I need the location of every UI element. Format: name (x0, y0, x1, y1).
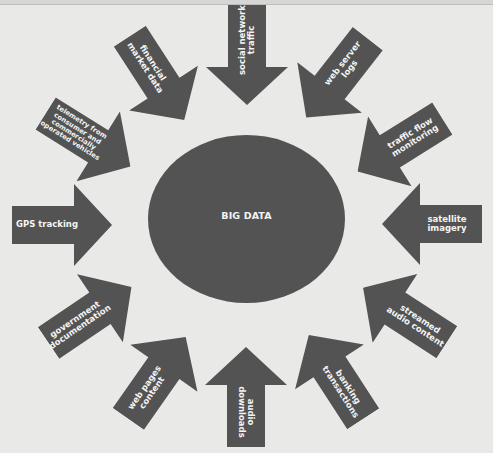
big-data-hub: BIG DATA (148, 135, 345, 303)
source-label: social network traffic (227, 5, 267, 75)
source-label: satellite imagery (412, 204, 482, 244)
source-arrow-gps-tracking: GPS tracking (12, 184, 112, 266)
source-label: audio downloads (226, 377, 266, 447)
source-arrow-satellite-imagery: satellite imagery (382, 183, 482, 265)
source-label: GPS tracking (12, 205, 82, 245)
hub-label: BIG DATA (148, 210, 345, 221)
big-data-diagram: BIG DATA social network traffic web serv… (0, 0, 493, 453)
